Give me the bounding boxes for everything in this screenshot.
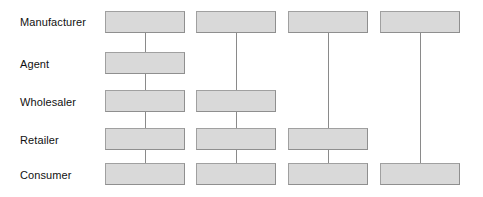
node-channel-1-consumer[interactable] bbox=[105, 163, 185, 185]
node-channel-3-retailer[interactable] bbox=[288, 128, 368, 150]
node-channel-4-consumer[interactable] bbox=[380, 163, 460, 185]
connector-channel-2-manufacturer-to-wholesaler bbox=[236, 33, 237, 90]
node-channel-1-retailer[interactable] bbox=[105, 128, 185, 150]
node-channel-1-manufacturer[interactable] bbox=[105, 11, 185, 33]
connector-channel-2-wholesaler-to-retailer bbox=[236, 112, 237, 128]
connector-channel-3-manufacturer-to-retailer bbox=[328, 33, 329, 128]
node-channel-1-agent[interactable] bbox=[105, 52, 185, 74]
row-label-agent: Agent bbox=[20, 58, 49, 70]
distribution-channel-diagram: ManufacturerAgentWholesalerRetailerConsu… bbox=[0, 0, 483, 197]
connector-channel-1-wholesaler-to-retailer bbox=[145, 112, 146, 128]
connector-channel-1-retailer-to-consumer bbox=[145, 150, 146, 163]
node-channel-3-manufacturer[interactable] bbox=[288, 11, 368, 33]
connector-channel-1-manufacturer-to-agent bbox=[145, 33, 146, 52]
node-channel-4-manufacturer[interactable] bbox=[380, 11, 460, 33]
row-label-consumer: Consumer bbox=[20, 169, 72, 181]
node-channel-2-wholesaler[interactable] bbox=[196, 90, 276, 112]
row-label-manufacturer: Manufacturer bbox=[20, 16, 86, 28]
node-channel-2-consumer[interactable] bbox=[196, 163, 276, 185]
node-channel-1-wholesaler[interactable] bbox=[105, 90, 185, 112]
row-label-retailer: Retailer bbox=[20, 134, 59, 146]
connector-channel-1-agent-to-wholesaler bbox=[145, 74, 146, 90]
connector-channel-2-retailer-to-consumer bbox=[236, 150, 237, 163]
node-channel-3-consumer[interactable] bbox=[288, 163, 368, 185]
row-label-wholesaler: Wholesaler bbox=[20, 96, 76, 108]
node-channel-2-retailer[interactable] bbox=[196, 128, 276, 150]
connector-channel-3-retailer-to-consumer bbox=[328, 150, 329, 163]
connector-channel-4-manufacturer-to-consumer bbox=[420, 33, 421, 163]
node-channel-2-manufacturer[interactable] bbox=[196, 11, 276, 33]
